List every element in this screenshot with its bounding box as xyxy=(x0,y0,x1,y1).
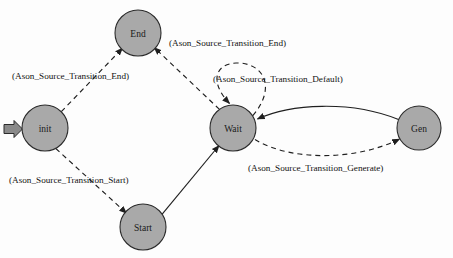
state-node-end-label: End xyxy=(130,29,146,39)
state-node-end[interactable]: End xyxy=(115,10,161,56)
state-node-init[interactable]: init xyxy=(22,105,68,151)
edge-label-init-to-start: (Ason_Source_Transition_Start) xyxy=(9,175,129,185)
state-node-wait-label: Wait xyxy=(224,124,242,134)
state-diagram-svg: End init Wait Gen Start (Ason_Source_Tra… xyxy=(0,0,453,258)
state-node-gen-label: Gen xyxy=(411,124,427,134)
edge-gen-to-wait xyxy=(258,106,399,119)
state-node-start-label: Start xyxy=(134,223,152,233)
edge-wait-to-end xyxy=(154,48,219,110)
edge-label-wait-to-end: (Ason_Source_Transition_End) xyxy=(169,38,286,48)
edge-label-wait-self-loop: (Ason_Source_Transition_Default) xyxy=(213,74,343,84)
state-node-wait[interactable]: Wait xyxy=(210,105,256,151)
edge-label-wait-to-gen: (Ason_Source_Transition_Generate) xyxy=(248,163,383,173)
state-node-gen[interactable]: Gen xyxy=(397,106,441,150)
state-node-init-label: init xyxy=(39,124,52,134)
state-diagram-canvas: End init Wait Gen Start (Ason_Source_Tra… xyxy=(0,0,453,258)
edge-label-init-to-end: (Ason_Source_Transition_End) xyxy=(12,71,129,81)
edge-wait-to-gen xyxy=(255,139,400,156)
entry-arrow-icon xyxy=(4,121,23,138)
edge-start-to-wait xyxy=(162,146,219,215)
state-node-start[interactable]: Start xyxy=(120,204,166,250)
